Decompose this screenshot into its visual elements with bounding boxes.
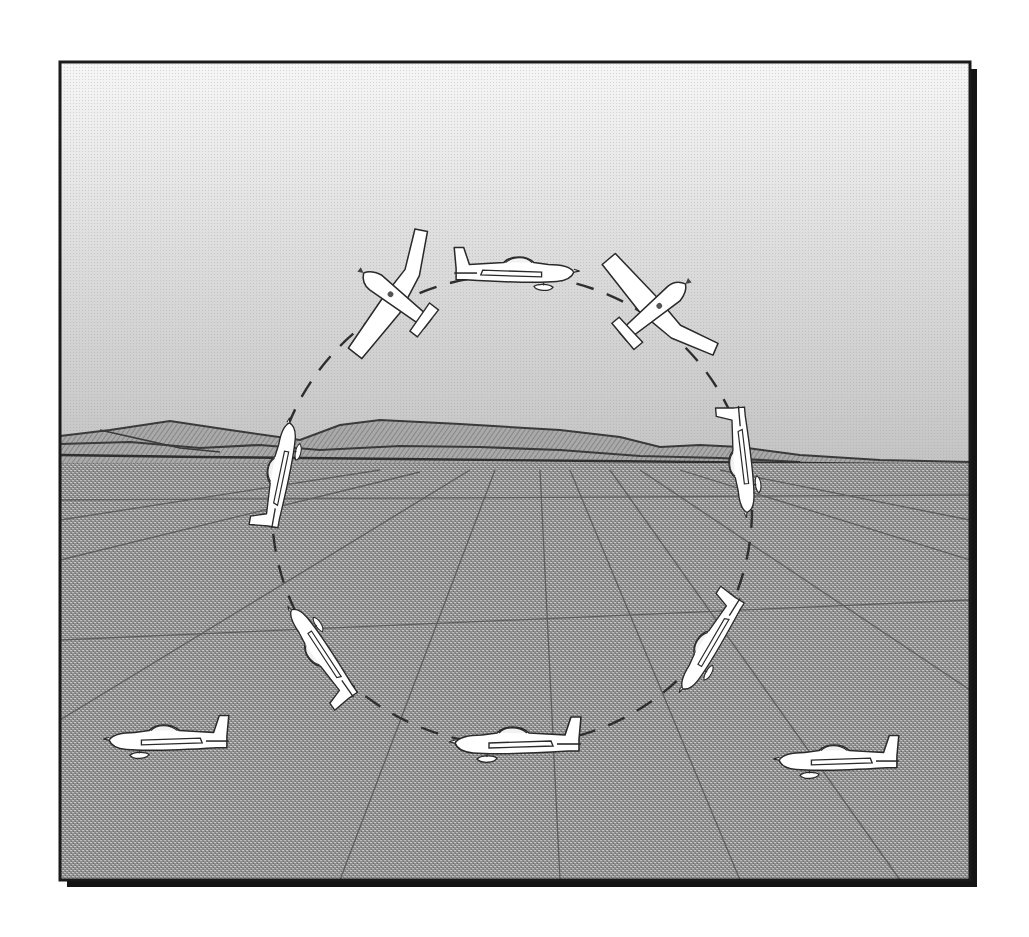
loop-maneuver-illustration bbox=[0, 0, 1029, 937]
